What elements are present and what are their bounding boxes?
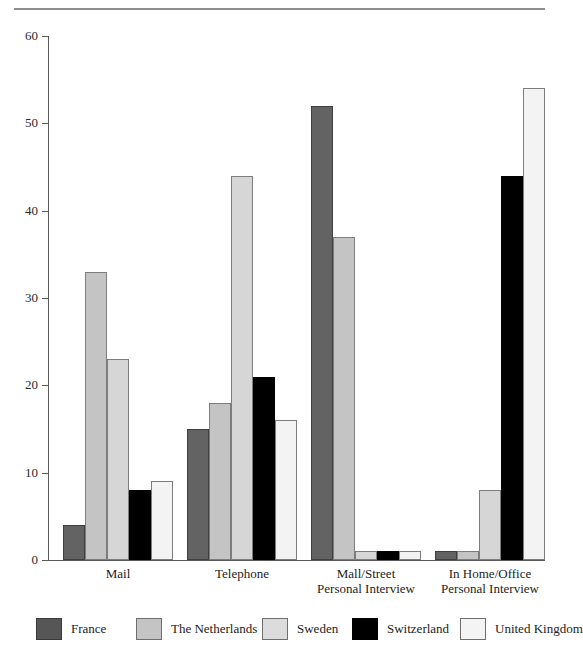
legend-item[interactable]: Sweden (262, 618, 338, 640)
legend-label: Switzerland (387, 622, 449, 636)
y-axis-tick-label: 50 (4, 116, 38, 129)
y-axis-tick (42, 298, 48, 299)
bar (63, 525, 85, 560)
bar (231, 176, 253, 560)
x-axis-category-label: In Home/Office Personal Interview (410, 566, 570, 596)
legend-swatch-icon (36, 618, 62, 640)
y-axis-tick-label: 30 (4, 291, 38, 304)
y-axis-tick (42, 211, 48, 212)
bar (275, 420, 297, 560)
bar (399, 551, 421, 560)
x-axis-line (48, 560, 545, 561)
bar-group (63, 36, 173, 560)
chart-legend: FranceThe NetherlandsSwedenSwitzerlandUn… (0, 614, 559, 644)
y-axis-tick-label: 60 (4, 29, 38, 42)
legend-swatch-icon (262, 618, 288, 640)
y-axis-tick-label: 20 (4, 378, 38, 391)
bar (457, 551, 479, 560)
legend-label: United Kingdom (495, 622, 583, 636)
bar (501, 176, 523, 560)
legend-swatch-icon (136, 618, 162, 640)
bar (253, 377, 275, 560)
bar (355, 551, 377, 560)
bar (311, 106, 333, 560)
legend-item[interactable]: United Kingdom (460, 618, 583, 640)
legend-label: France (71, 622, 106, 636)
bar (85, 272, 107, 560)
bar-group (311, 36, 421, 560)
bar (129, 490, 151, 560)
y-axis-tick (42, 123, 48, 124)
legend-swatch-icon (460, 618, 486, 640)
bar (435, 551, 457, 560)
y-axis-tick-label: 0 (4, 553, 38, 566)
y-axis-tick (42, 560, 48, 561)
top-divider-rule (14, 8, 545, 10)
bar-group (187, 36, 297, 560)
bar (151, 481, 173, 560)
bar (209, 403, 231, 560)
bar (377, 551, 399, 560)
y-axis-tick-label: 40 (4, 204, 38, 217)
legend-item[interactable]: The Netherlands (136, 618, 257, 640)
legend-item[interactable]: France (36, 618, 106, 640)
bar (107, 359, 129, 560)
bar (479, 490, 501, 560)
legend-swatch-icon (352, 618, 378, 640)
legend-item[interactable]: Switzerland (352, 618, 449, 640)
bar (333, 237, 355, 560)
y-axis-tick (42, 36, 48, 37)
plot-area (48, 36, 545, 560)
bar (523, 88, 545, 560)
bar (187, 429, 209, 560)
legend-label: Sweden (297, 622, 338, 636)
y-axis-tick (42, 385, 48, 386)
y-axis-tick-label: 10 (4, 466, 38, 479)
y-axis-tick (42, 473, 48, 474)
legend-label: The Netherlands (171, 622, 257, 636)
bar-group (435, 36, 545, 560)
